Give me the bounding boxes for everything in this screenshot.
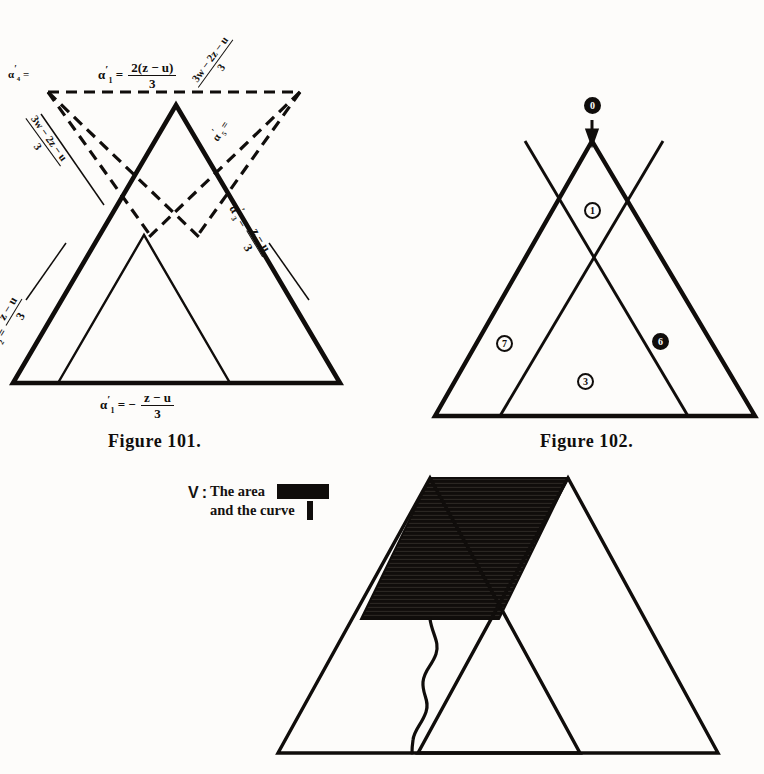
legend-curve-label: and the curve	[210, 501, 295, 520]
alpha1-bot-sub: 1	[110, 406, 114, 415]
alpha1-top-denominator: 3	[146, 76, 159, 90]
figure-103-drawing	[260, 462, 740, 774]
alpha1-top-eq: =	[116, 67, 123, 82]
alpha1-bot-eq: =	[118, 397, 125, 412]
figure-101-caption: Figure 101.	[108, 431, 201, 452]
legend-colon: :	[202, 482, 207, 503]
alpha5-sub: 5	[220, 130, 228, 137]
alpha1-bot-sign: −	[128, 397, 135, 412]
region-marker-0[interactable]: 0	[584, 97, 601, 114]
figure-101-drawing	[0, 0, 380, 420]
scanned-figure-page: α′1 = 2(z − u) 3 α′1 = − z − u 3 α′2 = z…	[0, 0, 764, 774]
alpha1-top-fraction: 2(z − u) 3	[128, 61, 176, 90]
figure-102: 0 1 7 3 6	[420, 90, 764, 430]
outer-triangle-102	[435, 141, 755, 416]
figure-101: α′1 = 2(z − u) 3 α′1 = − z − u 3 α′2 = z…	[0, 0, 380, 420]
alpha2-eq: =	[0, 326, 9, 339]
label-alpha1-bottom: α′1 = − z − u 3	[100, 392, 176, 421]
legend-row-area: The area	[210, 482, 329, 501]
alpha1-bot-numerator: z − u	[141, 391, 174, 406]
inner-triangle-101	[58, 235, 230, 383]
alpha1-bot-prime: ′	[107, 393, 110, 405]
region-marker-7[interactable]: 7	[496, 335, 513, 352]
legend-area-label: The area	[210, 482, 265, 501]
alpha1-bot-fraction: z − u 3	[141, 391, 174, 420]
legend-symbol-v: V	[188, 482, 199, 503]
region-marker-1[interactable]: 1	[584, 202, 601, 219]
alpha4-sub: 4	[17, 75, 20, 82]
alpha1-top-numerator: 2(z − u)	[128, 61, 176, 76]
figure-102-caption: Figure 102.	[540, 431, 633, 452]
region-marker-6[interactable]: 6	[652, 333, 669, 350]
curve-swatch	[307, 501, 313, 520]
figure-103	[260, 462, 740, 774]
internal-partitions-102	[500, 141, 688, 416]
alpha1-top-prime: ′	[105, 63, 108, 75]
alpha1-top-sub: 1	[108, 76, 112, 85]
label-alpha1-top: α′1 = 2(z − u) 3	[98, 62, 178, 91]
dashed-diagonals	[48, 92, 300, 238]
label-alpha4-upper-left: α′4 =	[8, 66, 29, 83]
alpha4-prime: ′	[14, 64, 17, 74]
region-marker-3[interactable]: 3	[577, 373, 594, 390]
alpha4-eq: =	[23, 68, 29, 80]
area-swatch	[277, 484, 329, 499]
alpha1-bot-denominator: 3	[151, 406, 164, 420]
dashed-construction-lines	[48, 92, 300, 235]
wavy-curve	[412, 619, 437, 753]
figure-103-legend: V: The area and the curve	[188, 482, 329, 520]
alpha3-eq: =	[235, 217, 251, 230]
legend-row-curve: and the curve	[210, 501, 329, 520]
